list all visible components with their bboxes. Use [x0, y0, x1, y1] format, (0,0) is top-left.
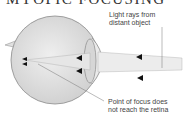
eye-diagram: [0, 0, 183, 121]
arrow-icon: [137, 75, 143, 81]
